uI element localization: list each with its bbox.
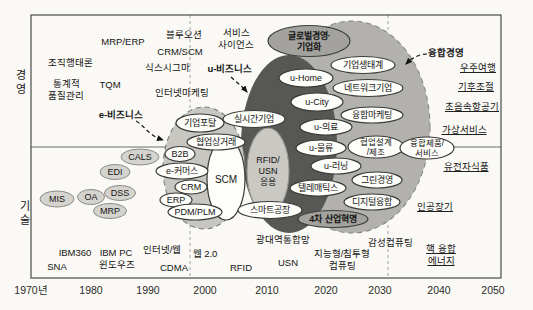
label-nuclear-fusion-energy: 핵 융합에너지 (426, 243, 456, 266)
u-city: u-City (291, 93, 343, 111)
cals: CALS (121, 149, 159, 165)
label-space-travel: 우주여행 (460, 62, 496, 73)
dss-label: DSS (111, 188, 130, 198)
green-management-label: 그린경영 (361, 174, 393, 185)
network-enterprise: 네트워크기업 (333, 80, 403, 97)
label-e-business: e-비즈니스 (99, 109, 143, 120)
x-tick-1980: 1980 (79, 284, 103, 296)
b2b: B2B (165, 147, 195, 162)
u-learning-label: u-러닝 (324, 161, 348, 171)
mrp: MRP (94, 204, 127, 219)
realtime-enterprise-label: 실시간기업 (234, 114, 274, 124)
scm-label: SCM (215, 174, 237, 185)
collaborative-commerce: 협업상거래 (187, 134, 245, 150)
oa: OA (78, 190, 105, 205)
pdm-plm-label: PDM/PLM (174, 207, 215, 217)
label-internet-web: 인터넷/웹 (143, 244, 182, 255)
label-affective-computing: 감성컴퓨팅 (368, 237, 413, 248)
label-genetic-food: 유전자식품 (444, 161, 489, 172)
u-logistics: u-물류 (296, 140, 346, 156)
edi: EDI (100, 165, 130, 180)
label-statistical-quality: 통계적품질관리 (48, 78, 84, 101)
u-logistics-label: u-물류 (309, 143, 333, 153)
e-commerce-label: e-커머스 (166, 166, 198, 176)
realtime-enterprise: 실시간기업 (223, 111, 285, 128)
mis-label: MIS (49, 194, 65, 204)
convergence-marketing: 융합마케팅 (341, 107, 403, 123)
label-supersonic-aircraft: 초음속항공기 (445, 101, 499, 112)
x-tick-2000: 2000 (193, 284, 217, 296)
label-service-science: 서비스사이언스 (218, 27, 254, 50)
x-tick-1970년: 1970년 (14, 284, 47, 296)
x-tick-2030: 2030 (368, 284, 392, 296)
collaborative-commerce-label: 협업상거래 (196, 136, 236, 147)
b2b-label: B2B (171, 149, 188, 159)
label-crm-scm: CRM/SCM (157, 46, 202, 57)
label-internet-marketing: 인터넷마케팅 (155, 87, 209, 98)
pdm-plm: PDM/PLM (168, 204, 222, 220)
green-management: 그린경영 (352, 172, 402, 188)
label-org-behavior: 조직행태론 (48, 57, 93, 68)
digital-convergence-label: 디지털융합 (352, 196, 392, 207)
u-home-label: u-Home (290, 73, 322, 83)
label-broadband-network: 광대역통합망 (256, 234, 310, 245)
evolution-diagram-svg: 글로벌경영·기업화SCMRFID/USN응용기업포탈실시간기업협업상거래B2Be… (0, 0, 533, 310)
x-tick-2020: 2020 (314, 284, 338, 296)
e-commerce: e-커머스 (156, 163, 208, 179)
x-tick-1990: 1990 (136, 284, 160, 296)
digital-convergence: 디지털융합 (344, 194, 400, 210)
fourth-industrial-revolution: 4차 산업혁명 (298, 211, 368, 228)
label-usn: USN (278, 257, 298, 268)
u-home: u-Home (279, 69, 333, 87)
business-ecosystem: 기업생태계 (331, 57, 395, 74)
label-blue-ocean: 블루오션 (166, 29, 202, 40)
label-ibm360: IBM360 (59, 247, 92, 258)
global-management-enterprise: 글로벌경영·기업화 (268, 26, 350, 57)
business-ecosystem-label: 기업생태계 (343, 59, 383, 70)
convergence-marketing-label: 융합마케팅 (352, 110, 392, 120)
label-climate-control: 기후조절 (458, 81, 494, 92)
network-enterprise-label: 네트워크기업 (344, 83, 392, 93)
label-sna: SNA (47, 261, 67, 272)
label-cdma: CDMA (160, 262, 189, 273)
convergence-product-service: 융합제품/서비스 (400, 137, 454, 159)
mrp-label: MRP (100, 206, 120, 216)
label-ibm-pc: IBM PC (100, 247, 133, 258)
oa-label: OA (84, 192, 97, 202)
label-convergence-management: 융합경영 (428, 47, 464, 58)
label-rfid: RFID (230, 262, 252, 273)
mis: MIS (40, 191, 74, 207)
label-virtual-service: 가상서비스 (442, 124, 487, 135)
label-u-business: u-비즈니스 (208, 63, 253, 74)
edi-label: EDI (107, 167, 122, 177)
x-tick-2050: 2050 (481, 284, 505, 296)
u-medical: u-의료 (300, 119, 352, 135)
label-tqm: TQM (99, 79, 120, 90)
u-city-label: u-City (305, 97, 329, 107)
erp-label: ERP (167, 195, 186, 205)
smart-factory-label: 스마트공장 (250, 205, 290, 215)
label-artificial-organs: 인공장기 (417, 201, 453, 212)
cals-label: CALS (128, 152, 152, 162)
enterprise-portal-label: 기업포탈 (184, 118, 216, 128)
telematics: 텔레매틱스 (290, 180, 346, 196)
telematics-label: 텔레매틱스 (298, 182, 338, 193)
dss: DSS (105, 186, 136, 201)
fourth-industrial-revolution-label: 4차 산업혁명 (309, 213, 357, 224)
x-tick-2010: 2010 (255, 284, 279, 296)
evolution-diagram: 글로벌경영·기업화SCMRFID/USN응용기업포탈실시간기업협업상거래B2Be… (0, 0, 533, 310)
crm-label: CRM (181, 182, 202, 192)
u-learning: u-러닝 (311, 158, 361, 174)
enterprise-portal: 기업포탈 (176, 114, 224, 132)
x-tick-2040: 2040 (427, 284, 451, 296)
label-six-sigma: 식스시그마 (145, 62, 190, 73)
crm: CRM (175, 180, 207, 194)
label-web20: 웹 2.0 (193, 248, 218, 259)
smart-factory: 스마트공장 (238, 202, 302, 219)
label-mrp-erp: MRP/ERP (101, 36, 144, 47)
collaborative-design-mfg: 협업설계/제조 (348, 136, 404, 158)
label-windows: 윈도우즈 (99, 259, 135, 270)
u-medical-label: u-의료 (314, 122, 338, 132)
